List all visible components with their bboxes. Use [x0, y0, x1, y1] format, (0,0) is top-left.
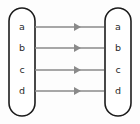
diagram-canvas: a b c d a b c d: [0, 0, 140, 124]
bipartite-mapping-diagram: a b c d a b c d: [0, 0, 140, 124]
right-element-label-a: a: [115, 21, 121, 32]
left-element-label-d: d: [19, 85, 25, 96]
right-element-label-c: c: [115, 64, 120, 75]
right-element-label-b: b: [115, 42, 121, 53]
left-element-label-a: a: [19, 21, 25, 32]
right-element-label-d: d: [115, 85, 121, 96]
left-element-label-b: b: [19, 42, 25, 53]
left-element-label-c: c: [19, 64, 24, 75]
